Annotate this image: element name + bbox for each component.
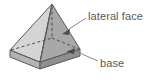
lateral-face-leader-line bbox=[66, 18, 86, 31]
label-base: base bbox=[100, 58, 124, 69]
figure-container: lateral face base bbox=[0, 0, 157, 80]
label-lateral-face: lateral face bbox=[88, 11, 143, 22]
